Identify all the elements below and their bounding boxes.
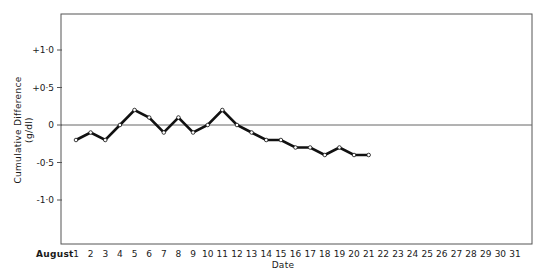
data-point-marker (118, 123, 122, 127)
data-point-marker (177, 116, 181, 120)
data-point-marker (308, 146, 312, 150)
data-point-marker (235, 123, 239, 127)
data-point-marker (352, 153, 356, 157)
data-point-marker (74, 138, 78, 142)
x-tick-label: 18 (319, 249, 331, 259)
x-tick-label: 2 (88, 249, 94, 259)
x-tick-label: 31 (509, 249, 520, 259)
chart: +1·0+0·50-0·5-1·0 1234567891011121314151… (0, 0, 542, 272)
x-tick-label: 26 (436, 249, 448, 259)
x-tick-label: 12 (231, 249, 242, 259)
x-tick-label: 14 (261, 249, 273, 259)
data-point-marker (367, 153, 371, 157)
x-axis-title: Date (272, 260, 295, 270)
data-point-marker (294, 146, 298, 150)
x-tick-label: 19 (334, 249, 346, 259)
x-tick-label: 6 (146, 249, 152, 259)
y-tick-label: 0 (48, 120, 54, 130)
x-tick-label: 10 (202, 249, 214, 259)
x-tick-label: 7 (161, 249, 167, 259)
y-axis-ticks: +1·0+0·50-0·5-1·0 (32, 45, 62, 205)
x-axis-month-label: August (36, 249, 74, 259)
plot-frame (61, 14, 532, 244)
data-point-marker (279, 138, 283, 142)
x-tick-label: 17 (304, 249, 315, 259)
x-tick-label: 4 (117, 249, 123, 259)
x-tick-label: 20 (348, 249, 360, 259)
x-tick-label: 21 (363, 249, 374, 259)
data-line (76, 110, 369, 155)
x-tick-label: 9 (190, 249, 196, 259)
y-tick-label: +1·0 (32, 45, 54, 55)
x-tick-label: 30 (495, 249, 507, 259)
y-axis-title: Cumulative Difference (13, 76, 23, 183)
y-tick-label: -0·5 (36, 158, 54, 168)
data-point-marker (250, 131, 254, 135)
y-tick-label: -1·0 (36, 195, 54, 205)
x-tick-label: 23 (392, 249, 403, 259)
x-tick-label: 13 (246, 249, 257, 259)
data-point-marker (147, 116, 151, 120)
data-markers (74, 108, 370, 157)
data-point-marker (162, 131, 166, 135)
x-tick-label: 28 (465, 249, 477, 259)
x-tick-label: 27 (451, 249, 462, 259)
x-tick-label: 11 (217, 249, 228, 259)
x-tick-label: 25 (421, 249, 432, 259)
x-tick-label: 5 (132, 249, 138, 259)
y-axis-units: (g/dl) (24, 117, 34, 143)
x-tick-label: 29 (480, 249, 492, 259)
x-tick-label: 15 (275, 249, 286, 259)
data-point-marker (133, 108, 137, 112)
data-point-marker (264, 138, 268, 142)
data-point-marker (103, 138, 107, 142)
x-tick-label: 8 (176, 249, 182, 259)
x-tick-label: 24 (407, 249, 419, 259)
data-point-marker (191, 131, 195, 135)
data-point-marker (89, 131, 93, 135)
x-tick-label: 16 (290, 249, 302, 259)
data-point-marker (323, 153, 327, 157)
data-point-marker (338, 146, 342, 150)
x-axis-ticks: 1234567891011121314151617181920212223242… (73, 249, 521, 259)
data-point-marker (206, 123, 210, 127)
x-tick-label: 3 (102, 249, 108, 259)
y-tick-label: +0·5 (32, 83, 54, 93)
data-point-marker (221, 108, 225, 112)
x-tick-label: 22 (378, 249, 389, 259)
x-tick-label: 1 (73, 249, 79, 259)
